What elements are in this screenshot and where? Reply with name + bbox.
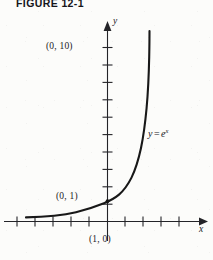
label-point-0-10: (0, 10): [46, 41, 73, 51]
equation-exponent: x: [166, 127, 169, 134]
label-point-0-1: (0, 1): [56, 191, 78, 201]
equation-operator: =: [154, 128, 160, 139]
y-axis-label: y: [113, 16, 117, 26]
y-axis-arrowhead: [104, 21, 112, 31]
exponential-function-plot: [0, 0, 213, 260]
figure-container: FIGURE 12-1: [0, 0, 213, 260]
label-point-1-0: (1, 0): [89, 234, 111, 244]
exponential-curve: [26, 31, 150, 217]
equation-lhs: y: [148, 128, 152, 139]
y-axis: [103, 21, 113, 241]
curve-equation-label: y=ex: [148, 127, 168, 139]
x-axis-label: x: [199, 224, 203, 234]
y-intercept-point: [106, 199, 110, 203]
